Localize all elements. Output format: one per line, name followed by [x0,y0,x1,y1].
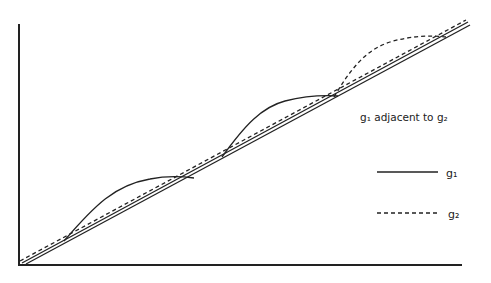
annotation-label: g₁ adjacent to g₂ [360,111,448,123]
diagram-canvas: g₁ adjacent to g₂ g₁ g₂ [0,0,491,283]
legend-label-g2: g₂ [448,208,459,221]
legend-item-g2: g₂ [377,208,459,221]
g2-path [20,20,466,261]
g1-path [22,22,470,264]
diagram-svg: g₁ adjacent to g₂ g₁ g₂ [0,0,491,283]
legend-label-g1: g₁ [446,167,457,180]
legend-item-g1: g₁ [377,167,457,180]
legend: g₁ g₂ [377,167,459,221]
